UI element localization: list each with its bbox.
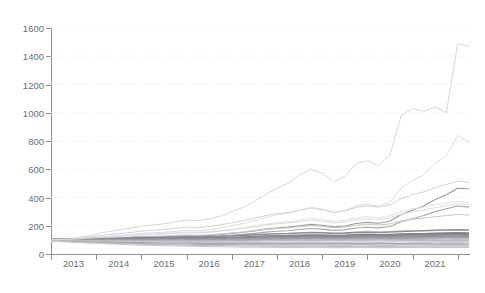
y-tick-label: 1400 bbox=[23, 51, 44, 62]
x-tick-mark bbox=[187, 255, 188, 260]
y-axis-labels: 02004006008001000120014001600 bbox=[0, 0, 44, 293]
x-tick-mark bbox=[51, 255, 52, 260]
x-tick-mark bbox=[458, 255, 459, 260]
x-tick-label: 2015 bbox=[153, 258, 174, 269]
x-tick-mark bbox=[232, 255, 233, 260]
x-tick-mark bbox=[141, 255, 142, 260]
x-tick-label: 2013 bbox=[63, 258, 84, 269]
x-tick-label: 2017 bbox=[244, 258, 265, 269]
y-tick-label: 400 bbox=[28, 192, 44, 203]
y-tick-label: 1000 bbox=[23, 107, 44, 118]
x-tick-mark bbox=[367, 255, 368, 260]
x-axis-line bbox=[51, 254, 470, 255]
x-tick-mark bbox=[413, 255, 414, 260]
x-tick-mark bbox=[277, 255, 278, 260]
x-tick-label: 2014 bbox=[108, 258, 129, 269]
y-tick-label: 800 bbox=[28, 136, 44, 147]
x-tick-label: 2021 bbox=[425, 258, 446, 269]
x-tick-mark bbox=[322, 255, 323, 260]
x-tick-label: 2016 bbox=[199, 258, 220, 269]
y-tick-label: 600 bbox=[28, 164, 44, 175]
x-tick-label: 2018 bbox=[289, 258, 310, 269]
y-tick-label: 1600 bbox=[23, 23, 44, 34]
x-tick-mark bbox=[96, 255, 97, 260]
series-lines bbox=[51, 28, 469, 254]
x-axis-labels: 201320142015201620172018201920202021 bbox=[0, 258, 485, 274]
y-tick-label: 1200 bbox=[23, 79, 44, 90]
x-tick-label: 2020 bbox=[379, 258, 400, 269]
y-tick-label: 200 bbox=[28, 220, 44, 231]
series-line bbox=[51, 135, 469, 240]
plot-area bbox=[51, 28, 469, 254]
chart-container: ·· ······ ··· ············ 0200400600800… bbox=[0, 0, 485, 293]
series-line bbox=[51, 188, 469, 240]
x-tick-label: 2019 bbox=[334, 258, 355, 269]
